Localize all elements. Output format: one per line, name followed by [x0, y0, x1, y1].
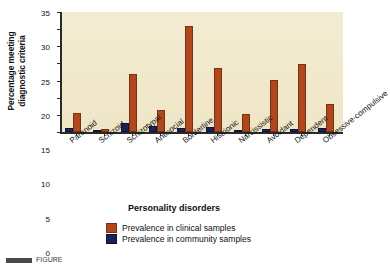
bar-clinical: [129, 74, 137, 132]
y-axis-tick-label: 25: [41, 77, 50, 86]
caption-text: FIGURE: [36, 256, 62, 263]
y-axis-tick-label: 30: [41, 43, 50, 52]
bar-community: [93, 130, 101, 132]
figure-caption: FIGURE: [6, 256, 342, 263]
x-axis-title: Personality disorders: [0, 203, 348, 213]
bar-community: [234, 130, 242, 132]
y-axis-tick-label: 20: [41, 111, 50, 120]
y-axis-title-line-2: diagnostic criteria: [17, 6, 28, 136]
y-axis-tick: 5: [57, 115, 62, 116]
y-axis-tick: 10: [57, 98, 62, 99]
bar-clinical: [298, 64, 306, 132]
legend-swatch: [106, 234, 117, 244]
legend-label: Prevalence in community samples: [122, 234, 251, 244]
y-axis-tick-label: 15: [41, 146, 50, 155]
y-axis-tick: 20: [57, 63, 62, 64]
y-axis-title: Percentage meeting diagnostic criteria: [6, 6, 36, 136]
legend-item: Prevalence in clinical samples: [106, 222, 251, 233]
legend-swatch: [106, 223, 117, 233]
chart-legend: Prevalence in clinical samplesPrevalence…: [106, 222, 251, 244]
caption-marker: [6, 258, 32, 263]
y-axis-tick: 35: [57, 12, 62, 13]
bar-group: [177, 26, 205, 132]
y-axis-tick-label: 5: [46, 214, 50, 223]
legend-item: Prevalence in community samples: [106, 233, 251, 244]
legend-label: Prevalence in clinical samples: [122, 223, 235, 233]
bar-community: [65, 128, 73, 132]
plot-area: 05101520253035: [60, 12, 343, 134]
y-axis-tick: 25: [57, 46, 62, 47]
bar-clinical: [270, 80, 278, 132]
y-axis-title-line-1: Percentage meeting: [6, 6, 17, 136]
y-axis-tick: 15: [57, 81, 62, 82]
y-axis-tick: 0: [57, 132, 62, 133]
y-axis-tick: 30: [57, 29, 62, 30]
bar-community: [262, 129, 270, 132]
y-axis-tick-label: 35: [41, 9, 50, 18]
y-axis-tick-label: 10: [41, 180, 50, 189]
bar-community: [290, 129, 298, 132]
bar-clinical: [185, 26, 193, 132]
